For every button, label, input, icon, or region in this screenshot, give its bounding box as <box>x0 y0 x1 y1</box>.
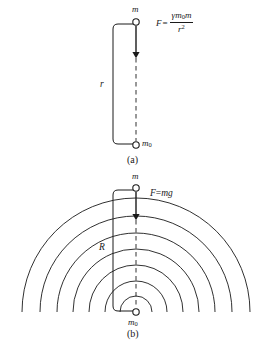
force-equation-a-denominator: r2 <box>176 23 187 34</box>
force-equation-b-rhs: mg <box>161 188 173 198</box>
point-mass-m-b <box>133 185 139 191</box>
mass-label-m0-b-subscript: 0 <box>135 320 138 327</box>
mass-label-m-a: m <box>132 5 139 14</box>
mass-label-m0-a-subscript: 0 <box>149 141 152 148</box>
distance-bracket-a <box>113 24 137 144</box>
numerator-m: m <box>185 10 192 20</box>
caption-b: (b) <box>127 329 139 339</box>
distance-bracket-b <box>113 190 137 311</box>
mass-label-m0-b: m0 <box>128 318 138 328</box>
point-mass-m0-a <box>133 142 139 148</box>
force-equation-a-numerator: γm0m <box>170 11 194 22</box>
panel-a-graphics <box>113 19 139 148</box>
denominator-exponent: 2 <box>182 23 185 30</box>
caption-a: (a) <box>127 155 138 165</box>
panel-b-graphics <box>22 185 250 315</box>
force-equation-a-equals: = <box>163 18 168 28</box>
mass-label-m-b: m <box>132 172 139 181</box>
force-equation-a-lhs: F <box>156 18 162 28</box>
point-mass-m0-b <box>133 309 139 315</box>
point-mass-m-a <box>133 19 139 25</box>
force-equation-a-fraction: γm0m r2 <box>170 11 194 34</box>
force-equation-a: F= γm0m r2 <box>156 11 193 34</box>
mass-label-m0-a: m0 <box>142 139 152 149</box>
force-equation-b: F=mg <box>150 188 173 198</box>
distance-label-r: r <box>100 80 104 90</box>
figure-root: m F= γm0m r2 r m0 (a) m F=mg R m0 (b) <box>0 0 268 342</box>
distance-label-R: R <box>99 243 105 253</box>
